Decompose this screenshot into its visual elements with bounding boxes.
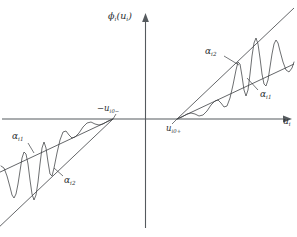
deadzone-negative-label: −ui0− bbox=[97, 104, 119, 113]
leader-u-i0-minus bbox=[113, 114, 116, 119]
slope-label-alpha-i1-lower-left: αi1 bbox=[12, 132, 24, 141]
sector-bounds-upper-right bbox=[177, 8, 294, 119]
alpha-i2-upper-bound-right bbox=[177, 8, 294, 119]
y-axis-label: ϕi(ui) bbox=[108, 11, 132, 21]
leader-alpha-i1-lower-left bbox=[28, 143, 34, 153]
x-axis-label: ui bbox=[283, 117, 291, 126]
leader-line-group bbox=[28, 56, 258, 176]
figure-container: ϕi(ui) ui ui0+ −ui0− αi2 αi1 αi1 αi2 bbox=[0, 0, 297, 237]
slope-label-alpha-i1-lower-right: αi1 bbox=[260, 90, 272, 99]
slope-label-alpha-i2-lower-left: αi2 bbox=[64, 176, 76, 185]
slope-label-alpha-i2-upper-right: αi2 bbox=[205, 47, 217, 56]
y-axis-arrowhead bbox=[142, 13, 149, 22]
leader-alpha-i2-lower-left bbox=[54, 168, 63, 176]
nonlinearity-plot bbox=[0, 0, 297, 237]
nonlinearity-curve-upper-right bbox=[177, 38, 294, 119]
alpha-i1-upper-bound-left bbox=[0, 119, 113, 174]
leader-alpha-i2-upper-right bbox=[224, 56, 239, 65]
axis-group bbox=[2, 13, 292, 228]
deadzone-positive-label: ui0+ bbox=[166, 124, 181, 133]
